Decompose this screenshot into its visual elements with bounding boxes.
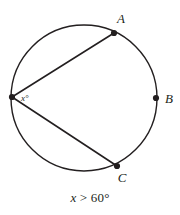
geometry-figure: A B C x° x > 60° [0, 0, 180, 215]
point-label-c: C [118, 170, 127, 185]
angle-label-x: x° [20, 93, 29, 103]
chord-vertex-to-c [12, 97, 117, 166]
point-dot-a [111, 30, 117, 36]
circle-shape [11, 25, 157, 171]
point-label-a: A [116, 11, 125, 26]
point-dot-c [114, 163, 120, 169]
caption-relation: > 60° [76, 190, 109, 205]
point-label-b: B [165, 91, 173, 106]
point-dot-b [153, 95, 159, 101]
figure-caption: x > 60° [0, 190, 180, 206]
circle-diagram-svg: A B C x° [0, 0, 180, 215]
point-dot-vertex [9, 94, 15, 100]
chord-vertex-to-a [12, 33, 114, 97]
